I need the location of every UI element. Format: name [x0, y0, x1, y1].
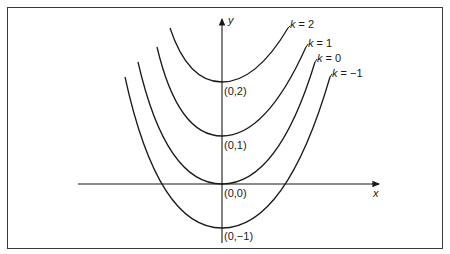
- vertex-label-k-neg1: (0,−1): [224, 231, 253, 242]
- k-value: = −1: [338, 67, 363, 79]
- vertex-label-k-0: (0,0): [224, 188, 247, 199]
- k-value: = 2: [296, 18, 315, 30]
- y-axis-label: y: [228, 15, 234, 26]
- curve-label-k-1: k = 1: [308, 38, 332, 49]
- curve-label-k-neg1: k = −1: [332, 68, 363, 79]
- k-value: = 1: [314, 37, 333, 49]
- curve-k-2: [170, 28, 288, 82]
- parabola-family-diagram: [0, 0, 450, 254]
- curve-label-k-2: k = 2: [290, 19, 314, 30]
- curve-k-neg1: [125, 77, 330, 228]
- curve-label-k-0: k = 0: [317, 53, 341, 64]
- x-axis-label: x: [373, 188, 379, 199]
- k-value: = 0: [323, 52, 342, 64]
- vertex-label-k-2: (0,2): [224, 86, 247, 97]
- vertex-label-k-1: (0,1): [224, 140, 247, 151]
